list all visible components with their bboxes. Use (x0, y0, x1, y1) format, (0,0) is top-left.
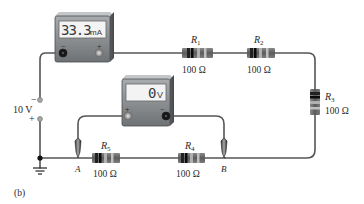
r5-name: R5 (100, 140, 111, 153)
resistor-r5[interactable] (92, 153, 120, 163)
probe-b[interactable] (221, 139, 227, 159)
circuit-diagram: − 10 V + 33.3 mA − + 0 V + − A B (0, 0, 364, 204)
ammeter-reading: 33.3 (61, 22, 91, 38)
r3-value: 100 Ω (325, 106, 349, 116)
r3-name: R3 (324, 91, 335, 104)
r4-name: R4 (184, 140, 195, 153)
voltmeter-reading: 0 (148, 85, 156, 101)
wire-voltmeter-minus-lead (172, 116, 224, 140)
node-a-label: A (74, 164, 81, 174)
resistor-r2[interactable] (247, 48, 275, 58)
voltmeter: 0 V + − (122, 75, 174, 126)
source-plus-label: + (29, 113, 35, 124)
wire-r3-to-b (225, 115, 315, 158)
voltmeter-unit: V (157, 90, 163, 100)
ground-icon (33, 168, 47, 174)
probe-a[interactable] (75, 139, 81, 159)
voltmeter-minus-jack[interactable] (162, 112, 170, 120)
ammeter-minus-jack[interactable] (59, 49, 67, 57)
r5-value: 100 Ω (93, 169, 117, 179)
r1-name: R1 (190, 34, 201, 47)
voltmeter-plus-jack[interactable] (124, 112, 132, 120)
r4-value: 100 Ω (176, 169, 200, 179)
ammeter: 33.3 mA − + (55, 12, 114, 62)
ammeter-plus-jack[interactable] (95, 49, 103, 57)
source-minus-terminal[interactable] (38, 98, 43, 103)
wire-r2-to-r3 (275, 53, 315, 89)
figure-label: (b) (14, 188, 25, 199)
r2-name: R2 (253, 34, 264, 47)
r2-value: 100 Ω (247, 65, 271, 75)
resistor-r3[interactable] (310, 89, 320, 115)
ammeter-unit: mA (90, 28, 103, 37)
resistor-r4[interactable] (178, 153, 205, 163)
resistor-r1[interactable] (182, 48, 213, 58)
wires (40, 53, 315, 168)
r1-value: 100 Ω (182, 65, 206, 75)
wire-voltmeter-plus-lead (78, 116, 127, 140)
source-plus-terminal[interactable] (38, 117, 43, 122)
node-b-label: B (221, 164, 227, 174)
ground-junction-dot (37, 155, 42, 160)
